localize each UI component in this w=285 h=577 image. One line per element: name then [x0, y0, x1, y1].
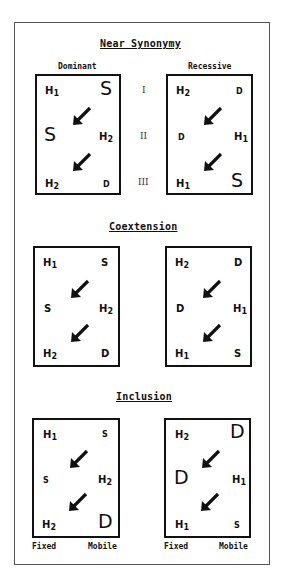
- label-h2: H2: [176, 86, 190, 98]
- label-h2: H2: [45, 179, 59, 191]
- axis-label-fixed: Fixed: [32, 542, 56, 551]
- axis-label-mobile: Mobile: [219, 542, 248, 551]
- label-h1: H1: [175, 349, 189, 361]
- section-title-coextension: Coextension: [109, 221, 177, 232]
- label-d-large: D: [98, 512, 113, 531]
- arrow-down-left-icon: [202, 105, 224, 127]
- label-s: S: [234, 349, 241, 359]
- coextension-left-box: H1 S S H2 H2 D: [33, 246, 120, 367]
- inclusion-left-box: H1 S S H2 H2 D: [32, 418, 120, 538]
- label-s-small: S: [43, 477, 49, 485]
- label-d-large: D: [230, 422, 245, 441]
- label-d-small: D: [103, 181, 110, 189]
- label-h2: H2: [43, 349, 57, 361]
- label-s-small: S: [102, 431, 108, 439]
- section-title-near-synonymy: Near Synonymy: [100, 38, 181, 49]
- row-numeral-3: III: [138, 177, 149, 187]
- label-d-small: D: [236, 88, 243, 96]
- arrow-down-left-icon: [67, 491, 89, 513]
- label-s-large: S: [100, 79, 112, 98]
- arrow-down-left-icon: [68, 448, 90, 470]
- label-h1: H1: [176, 179, 190, 191]
- label-h1: H1: [232, 475, 246, 487]
- near-synonymy-recessive-box: H2 D D H1 H1 S: [166, 74, 253, 195]
- coextension-right-box: H2 D D H1 H1 S: [165, 246, 252, 367]
- arrow-down-left-icon: [199, 491, 221, 513]
- label-h1: H1: [175, 520, 189, 532]
- arrow-down-left-icon: [200, 448, 222, 470]
- label-h1: H1: [45, 86, 59, 98]
- label-s-large: S: [231, 171, 243, 190]
- label-h2: H2: [175, 258, 189, 270]
- label-h1: H1: [234, 132, 248, 144]
- axis-label-mobile: Mobile: [88, 542, 117, 551]
- label-d: D: [234, 258, 242, 268]
- arrow-down-left-icon: [71, 105, 93, 127]
- row-numeral-1: I: [142, 85, 146, 95]
- arrow-down-left-icon: [69, 322, 91, 344]
- arrow-down-left-icon: [69, 278, 91, 300]
- arrow-down-left-icon: [202, 151, 224, 173]
- near-synonymy-dominant-box: H1 S S H2 H2 D: [35, 74, 121, 195]
- label-h2: H2: [175, 430, 189, 442]
- label-h1: H1: [233, 304, 247, 316]
- arrow-down-left-icon: [201, 278, 223, 300]
- row-numeral-2: II: [140, 131, 147, 141]
- label-h2: H2: [99, 304, 113, 316]
- section-title-inclusion: Inclusion: [116, 391, 172, 402]
- column-label-dominant: Dominant: [58, 62, 97, 71]
- label-d: D: [101, 349, 109, 359]
- label-s-small: S: [234, 522, 240, 530]
- label-h2: H2: [98, 475, 112, 487]
- arrow-down-left-icon: [71, 151, 93, 173]
- inclusion-right-box: H2 D D H1 H1 S: [164, 418, 251, 538]
- label-d-large: D: [174, 468, 189, 487]
- axis-label-fixed: Fixed: [164, 542, 188, 551]
- arrow-down-left-icon: [201, 322, 223, 344]
- label-h2: H2: [99, 132, 113, 144]
- label-h2: H2: [42, 520, 56, 532]
- label-s-large: S: [44, 125, 56, 144]
- label-s: S: [101, 258, 108, 268]
- label-d: D: [176, 304, 184, 314]
- column-label-recessive: Recessive: [188, 62, 231, 71]
- label-h1: H1: [43, 430, 57, 442]
- label-s: S: [44, 304, 51, 314]
- label-d-small: D: [178, 134, 185, 142]
- label-h1: H1: [43, 258, 57, 270]
